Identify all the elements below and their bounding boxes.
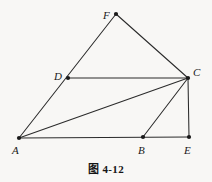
vertex-dot-F [114,12,118,16]
vertex-label-D: D [54,71,62,82]
vertex-dot-E [187,135,191,139]
geometry-diagram [0,0,212,182]
figure-caption: 图 4-12 [0,160,212,176]
segment-F-C [116,14,188,78]
segment-group [19,14,189,138]
vertex-dot-A [17,136,21,140]
segment-C-E [188,78,189,137]
vertex-label-C: C [193,67,200,78]
vertex-dot-B [141,135,145,139]
vertex-dot-C [186,76,190,80]
vertex-dot-D [66,76,70,80]
vertex-label-E: E [184,145,191,156]
segment-A-E [19,137,189,138]
vertex-label-A: A [12,145,19,156]
vertex-dot-group [17,12,191,140]
segment-B-C [143,78,188,137]
vertex-label-F: F [103,10,110,21]
figure-caption-text: 图 4-12 [88,163,124,175]
segment-A-C [19,78,188,138]
figure-page: F C D A B E 图 4-12 [0,0,212,182]
vertex-label-B: B [138,145,145,156]
